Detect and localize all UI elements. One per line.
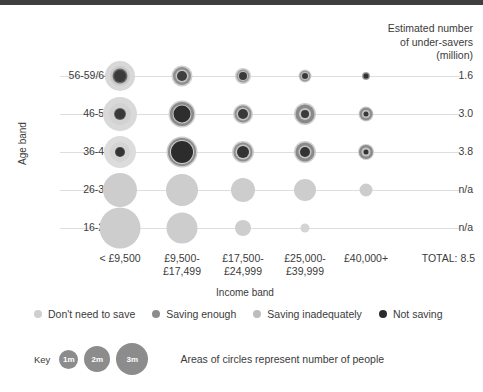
x-tick-line-2: £39,999	[262, 265, 348, 278]
row-value-label: n/a	[413, 183, 473, 195]
row-value-label: n/a	[413, 221, 473, 233]
legend-swatch-icon	[253, 310, 261, 318]
y-axis-tick-label: 46-55	[40, 107, 110, 119]
x-axis-title: Income band	[180, 287, 310, 298]
bubble-segment	[167, 213, 198, 244]
header-line-1: Estimated number	[303, 22, 473, 36]
bubble-segment	[114, 70, 126, 82]
legend-item-saving-inadequately[interactable]: Saving inadequately	[253, 308, 362, 320]
bubble-segment	[301, 224, 310, 233]
legend-swatch-icon	[152, 310, 160, 318]
bubble-segment	[294, 179, 316, 201]
bubble-segment	[302, 73, 308, 79]
bubble-segment	[300, 147, 310, 157]
legend-item-label: Don't need to save	[48, 308, 135, 320]
bubble-segment	[171, 141, 193, 163]
row-value-label: 3.0	[413, 107, 473, 119]
key-bubble-2m: 2m	[84, 346, 110, 372]
y-axis-tick-label: 26-35	[40, 183, 110, 195]
legend-swatch-icon	[34, 310, 42, 318]
y-axis-tick-label: 56-59/64	[40, 69, 110, 81]
key-bubble-group: 1m2m3m	[59, 343, 154, 375]
key-bubble-1m: 1m	[59, 350, 78, 369]
legend-item-label: Not saving	[393, 308, 443, 320]
bubble-segment	[364, 150, 369, 155]
y-axis-title: Age band	[17, 104, 28, 184]
bubble-chart: Estimated number of under-savers (millio…	[0, 0, 483, 392]
bubble-segment	[166, 174, 198, 206]
header-line-2: of under-savers	[303, 36, 473, 50]
bubble-segment	[364, 112, 369, 117]
header-line-3: (million)	[303, 49, 473, 63]
bubble-segment	[364, 74, 369, 79]
legend-item-not-saving[interactable]: Not saving	[379, 308, 443, 320]
bubble-segment	[174, 106, 191, 123]
category-legend: Don't need to saveSaving enoughSaving in…	[34, 306, 454, 322]
bubble-segment	[238, 109, 248, 119]
row-value-label: 1.6	[413, 69, 473, 81]
bubble-segment	[237, 146, 249, 158]
size-key: Key 1m2m3m Areas of circles represent nu…	[34, 338, 464, 380]
legend-item-dont-need-to-save[interactable]: Don't need to save	[34, 308, 135, 320]
legend-item-saving-enough[interactable]: Saving enough	[152, 308, 236, 320]
bubble-segment	[116, 148, 124, 156]
bubble-segment	[235, 220, 251, 236]
y-axis-tick-label: 36-45	[40, 145, 110, 157]
legend-swatch-icon	[379, 310, 387, 318]
bubble-segment	[301, 110, 309, 118]
key-word-label: Key	[34, 354, 50, 365]
bubble-segment	[103, 173, 137, 207]
bubble-segment	[177, 71, 187, 81]
bubble-segment	[100, 208, 141, 249]
bubble-segment	[360, 184, 373, 197]
key-bubble-3m: 3m	[116, 343, 148, 375]
bubble-segment	[231, 178, 255, 202]
bubble-segment	[239, 72, 247, 80]
key-note-label: Areas of circles represent number of peo…	[180, 353, 384, 365]
legend-item-label: Saving inadequately	[267, 308, 362, 320]
row-value-label: 3.8	[413, 145, 473, 157]
legend-item-label: Saving enough	[166, 308, 236, 320]
grand-total-label: TOTAL: 8.5	[385, 252, 475, 264]
chart-value-header: Estimated number of under-savers (millio…	[303, 22, 473, 63]
bubble-segment	[115, 109, 125, 119]
